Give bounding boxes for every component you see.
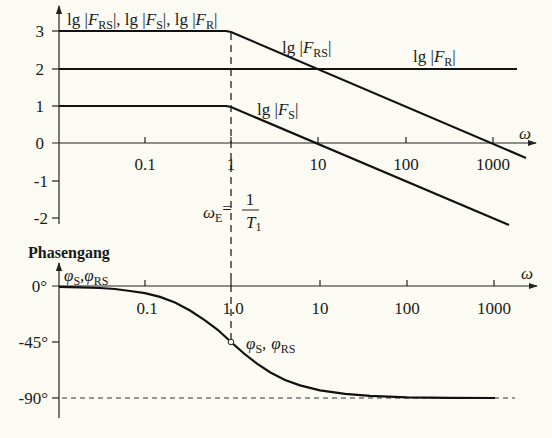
phase-y-tick-minus45: -45° (19, 333, 48, 352)
x-tick-1000: 1000 (476, 155, 510, 174)
magnitude-axis-title: lg |FRS|, lg |FS|, lg |FR| (67, 10, 217, 32)
phase-curve-label: φS,φRS (246, 334, 295, 356)
y-tick-0: 0 (36, 134, 45, 153)
omega-e-label: ωE= (203, 199, 232, 225)
phase-x-tick-1.0: 1.0 (222, 299, 243, 318)
y-tick-minus2: -2 (34, 209, 48, 228)
magnitude-omega-label: ω (519, 124, 531, 143)
x-tick-100: 100 (393, 155, 419, 174)
label-lg-frs: lg |FRS| (282, 38, 331, 60)
phase-axis-title: φS,φRS (64, 266, 108, 288)
y-tick-2: 2 (36, 60, 45, 79)
phase-x-tick-1000: 1000 (477, 299, 511, 318)
phase-y-tick-0: 0° (32, 277, 47, 296)
y-tick-minus1: -1 (34, 172, 48, 191)
label-lg-fs: lg |FS| (257, 100, 298, 122)
label-lg-fr: lg |FR| (413, 47, 456, 69)
x-tick-10: 10 (310, 155, 327, 174)
series-lg-fs (59, 106, 509, 225)
magnitude-y-ticks: 3 2 1 0 -1 -2 (34, 22, 59, 228)
phase-chart: Phasengang 0° -45° -90° 0.1 1.0 10 100 1… (19, 244, 537, 418)
phase-y-tick-minus90: -90° (19, 389, 48, 408)
fraction-denominator: T1 (246, 213, 261, 234)
y-tick-1: 1 (36, 97, 45, 116)
corner-frequency-annotation: ωE= 1 T1 (203, 190, 261, 234)
phase-x-tick-10: 10 (312, 299, 329, 318)
x-tick-0.1: 0.1 (134, 155, 155, 174)
phase-y-ticks: 0° -45° -90° (19, 277, 59, 408)
fraction-numerator: 1 (246, 190, 255, 209)
bode-diagram: 3 2 1 0 -1 -2 0.1 1 10 100 1000 ω lg |FR… (0, 0, 552, 438)
phase-x-tick-100: 100 (394, 299, 420, 318)
minus-45-marker (228, 339, 234, 345)
y-tick-3: 3 (36, 22, 45, 41)
magnitude-chart: 3 2 1 0 -1 -2 0.1 1 10 100 1000 ω lg |FR… (34, 6, 536, 234)
phase-title: Phasengang (28, 244, 110, 262)
phase-omega-label: ω (521, 264, 533, 283)
phase-x-tick-0.1: 0.1 (136, 299, 157, 318)
